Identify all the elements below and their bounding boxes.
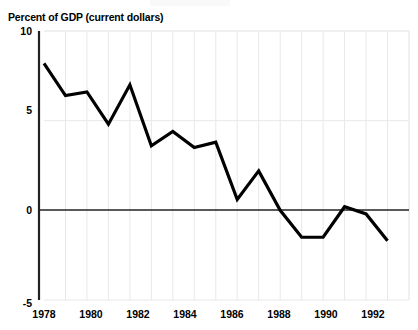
plot-area [0, 0, 418, 330]
chart-figure: Percent of GDP (current dollars) 10 5 0 … [0, 0, 418, 330]
horizontal-gridlines [44, 31, 409, 300]
vertical-gridlines [65, 31, 409, 300]
